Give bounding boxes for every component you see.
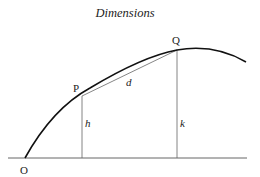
trajectory-curve xyxy=(25,48,246,158)
diagram-canvas: P Q O d h k xyxy=(0,0,260,177)
point-label-p: P xyxy=(73,82,79,94)
segment-label-k: k xyxy=(180,117,186,129)
chord-pq xyxy=(82,50,177,96)
segment-label-h: h xyxy=(85,117,91,129)
segment-label-d: d xyxy=(126,76,132,88)
point-label-o: O xyxy=(20,164,28,176)
point-label-q: Q xyxy=(172,34,180,46)
